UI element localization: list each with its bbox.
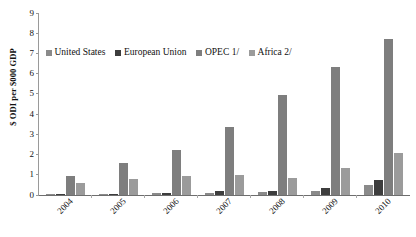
bar[interactable] [119, 163, 128, 195]
x-tick-label: 2009 [320, 196, 340, 216]
y-tick-label: 3 [30, 128, 35, 140]
x-tick: 2006 [144, 197, 197, 237]
bar[interactable] [205, 193, 214, 195]
x-tick-label: 2006 [161, 196, 181, 216]
bar[interactable] [99, 194, 108, 195]
y-tick-label: 8 [30, 27, 35, 39]
y-tick-label: 1 [30, 168, 35, 180]
legend-item[interactable]: United States [46, 47, 105, 58]
bar[interactable] [384, 39, 393, 195]
x-tick-label: 2004 [55, 196, 75, 216]
y-tick-label: 0 [30, 189, 35, 201]
y-tick-label: 2 [30, 148, 35, 160]
bar[interactable] [129, 179, 138, 195]
bar[interactable] [331, 67, 340, 195]
bar[interactable] [278, 95, 287, 195]
x-tick-label: 2007 [214, 196, 234, 216]
x-tick: 2005 [91, 197, 144, 237]
bar[interactable] [374, 180, 383, 195]
bar-group [198, 14, 251, 195]
bar[interactable] [311, 191, 320, 195]
bar-group [145, 14, 198, 195]
plot-area: 0123456789 [38, 14, 410, 196]
bar[interactable] [109, 194, 118, 195]
legend-swatch-icon [196, 50, 202, 56]
bar[interactable] [76, 183, 85, 195]
y-tick-label: 7 [30, 47, 35, 59]
y-axis-title: $ ODI per $000 GDP [8, 12, 18, 162]
x-tick-label: 2008 [267, 196, 287, 216]
x-tick-label: 2010 [374, 196, 394, 216]
bar-group [251, 14, 304, 195]
legend-swatch-icon [249, 50, 255, 56]
legend-label: Africa 2/ [258, 47, 292, 58]
legend-item[interactable]: European Union [115, 47, 186, 58]
bar[interactable] [56, 194, 65, 195]
legend-label: OPEC 1/ [205, 47, 239, 58]
x-tick: 2004 [38, 197, 91, 237]
legend-item[interactable]: OPEC 1/ [196, 47, 239, 58]
y-tick-label: 4 [30, 108, 35, 120]
legend-swatch-icon [115, 50, 121, 56]
bar[interactable] [215, 191, 224, 195]
bar-chart: $ ODI per $000 GDP 0123456789 United Sta… [0, 0, 416, 237]
x-tick: 2010 [357, 197, 410, 237]
bar-group [357, 14, 410, 195]
y-tick-label: 5 [30, 87, 35, 99]
bar-group [92, 14, 145, 195]
y-tick-label: 6 [30, 67, 35, 79]
x-axis-labels: 2004200520062007200820092010 [38, 197, 410, 237]
bar[interactable] [321, 188, 330, 195]
x-tick: 2007 [197, 197, 250, 237]
legend-item[interactable]: Africa 2/ [249, 47, 292, 58]
bar-group [304, 14, 357, 195]
legend-swatch-icon [46, 50, 52, 56]
x-tick-label: 2005 [108, 196, 128, 216]
bar[interactable] [172, 150, 181, 196]
bar[interactable] [162, 193, 171, 195]
bar-groups [39, 14, 410, 195]
bar[interactable] [394, 153, 403, 195]
bar[interactable] [225, 127, 234, 195]
bar[interactable] [46, 194, 55, 195]
bar[interactable] [268, 191, 277, 195]
x-tick: 2008 [251, 197, 304, 237]
bar[interactable] [341, 168, 350, 195]
legend-label: European Union [124, 47, 187, 58]
bar[interactable] [66, 176, 75, 195]
bar[interactable] [152, 193, 161, 195]
y-tick-label: 9 [30, 7, 35, 19]
bar[interactable] [288, 178, 297, 195]
bar[interactable] [364, 185, 373, 195]
bar[interactable] [235, 175, 244, 195]
bar[interactable] [258, 192, 267, 195]
bar[interactable] [182, 176, 191, 195]
chart-legend: United StatesEuropean UnionOPEC 1/Africa… [46, 47, 292, 58]
legend-label: United States [55, 47, 106, 58]
bar-group [39, 14, 92, 195]
x-tick: 2009 [304, 197, 357, 237]
